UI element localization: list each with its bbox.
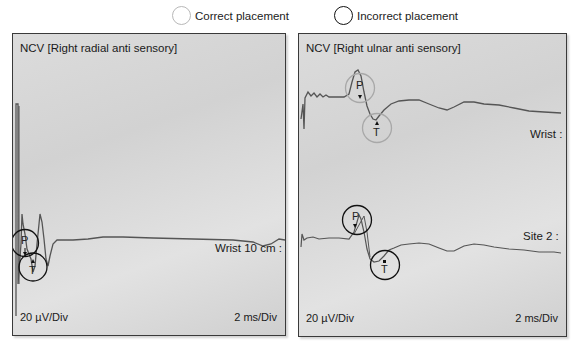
trace-wrist-10cm [16, 104, 285, 316]
panel-radial: NCV [Right radial anti sensory] P T Wris… [12, 33, 286, 336]
ulnar-trace-plot: P T P T [299, 34, 568, 338]
legend-label-incorrect: Incorrect placement [357, 10, 458, 22]
radial-trace-plot: P T [13, 34, 287, 337]
legend: Correct placement Incorrect placement [0, 6, 577, 28]
trace-site-2 [301, 215, 561, 262]
svg-text:T: T [381, 263, 388, 275]
svg-text:P: P [356, 79, 363, 91]
trace-wrist [301, 70, 561, 129]
y-scale-label: 20 µV/Div [306, 312, 354, 324]
legend-item-incorrect: Incorrect placement [334, 6, 458, 25]
trace-label-wrist: Wrist : [530, 128, 562, 140]
trace-label-site-2: Site 2 : [523, 230, 559, 242]
incorrect-placement-circle-icon [334, 6, 353, 25]
panel-ulnar: NCV [Right ulnar anti sensory] P T P T [298, 33, 567, 337]
marker-t-incorrect: T [19, 253, 47, 281]
x-scale-label: 2 ms/Div [515, 312, 558, 324]
trace-label-wrist-10cm: Wrist 10 cm : [215, 242, 282, 254]
legend-item-correct: Correct placement [172, 6, 289, 25]
y-scale-label: 20 µV/Div [20, 311, 68, 323]
svg-text:P: P [21, 234, 28, 246]
correct-placement-circle-icon [172, 6, 191, 25]
svg-text:T: T [373, 126, 380, 138]
svg-text:P: P [352, 210, 359, 222]
x-scale-label: 2 ms/Div [234, 311, 277, 323]
marker-p-incorrect: P [343, 206, 372, 235]
legend-label-correct: Correct placement [195, 10, 289, 22]
svg-text:T: T [29, 264, 36, 276]
